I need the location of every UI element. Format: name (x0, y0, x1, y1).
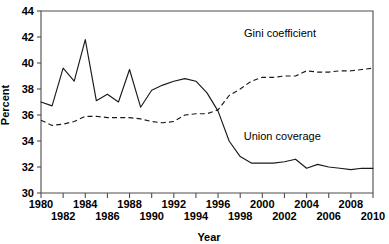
chart-figure: 3032343638404244 19801984198819921996200… (0, 0, 389, 244)
series-group (41, 40, 373, 170)
x-tick-label: 1986 (95, 210, 119, 222)
y-axis-title: Percent (0, 84, 11, 125)
y-tick-label: 34 (22, 135, 35, 147)
series-line-union-coverage (41, 40, 373, 170)
y-tick-label: 36 (22, 109, 34, 121)
y-axis-tick-labels: 3032343638404244 (22, 5, 35, 199)
y-tick-label: 40 (22, 57, 34, 69)
x-tick-label: 1984 (73, 198, 98, 210)
x-tick-label: 2008 (339, 198, 363, 210)
y-tick-label: 44 (22, 5, 35, 17)
y-tick-label: 42 (22, 31, 34, 43)
x-tick-label: 1994 (184, 210, 209, 222)
x-tick-label: 1996 (206, 198, 230, 210)
y-axis-ticks (37, 11, 41, 193)
x-tick-label: 1990 (139, 210, 163, 222)
x-tick-label: 2004 (294, 198, 319, 210)
series-annotations: Gini coefficientUnion coverage (244, 27, 321, 142)
y-tick-label: 38 (22, 83, 34, 95)
x-axis-tick-labels: 1980198419881992199620002004200819821986… (29, 198, 385, 222)
series-line-gini-coefficient (41, 68, 373, 125)
union-label: Union coverage (244, 130, 321, 142)
x-tick-label: 1988 (117, 198, 141, 210)
x-tick-label: 2002 (272, 210, 296, 222)
x-tick-label: 1992 (162, 198, 186, 210)
x-tick-label: 1980 (29, 198, 53, 210)
x-tick-label: 1998 (228, 210, 252, 222)
x-tick-label: 2006 (316, 210, 340, 222)
line-chart: 3032343638404244 19801984198819921996200… (0, 0, 389, 244)
x-tick-label: 2010 (361, 210, 385, 222)
gini-label: Gini coefficient (244, 27, 316, 39)
x-axis-title: Year (197, 231, 221, 243)
y-tick-label: 32 (22, 161, 34, 173)
x-tick-label: 2000 (250, 198, 274, 210)
x-tick-label: 1982 (51, 210, 75, 222)
